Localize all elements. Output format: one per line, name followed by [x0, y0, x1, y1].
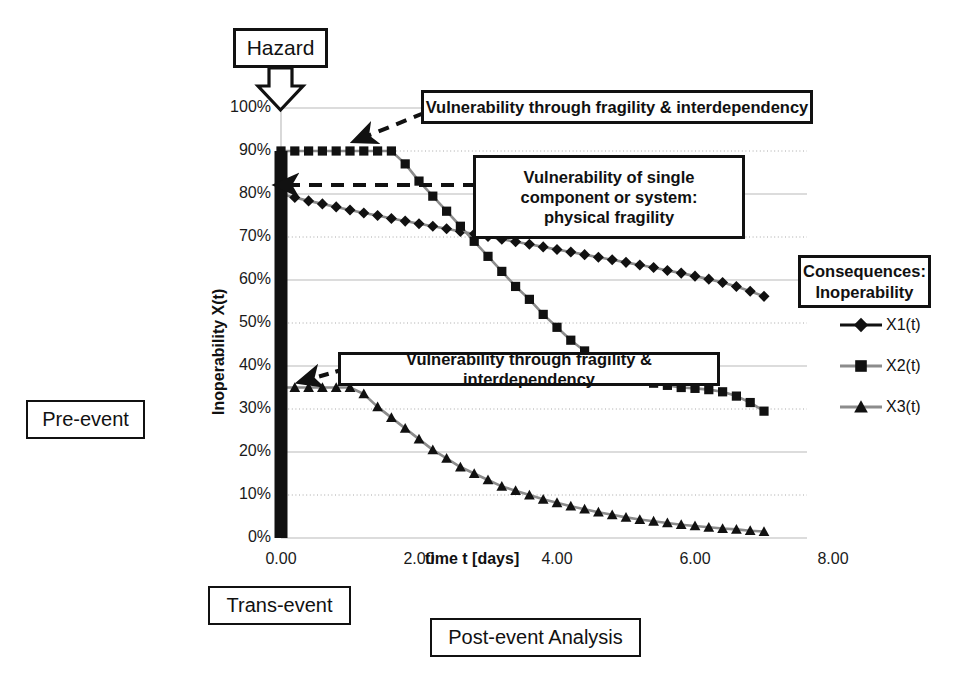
y-tick-label-10: 10%: [203, 485, 271, 503]
x-tick-label-4: 4.00: [517, 550, 597, 568]
phase-label-pre-event: Pre-event: [26, 400, 145, 439]
chart-canvas: 0%10%20%30%40%50%60%70%80%90%100% 0.002.…: [0, 0, 958, 693]
legend-marker-square-icon: [838, 357, 884, 375]
x-tick-label-6: 6.00: [655, 550, 735, 568]
x-tick-label-8: 8.00: [793, 550, 873, 568]
legend-label: X2(t): [886, 357, 921, 375]
phase-label-post-event: Post-event Analysis: [430, 618, 641, 657]
legend-label: X3(t): [886, 398, 921, 416]
legend-marker-triangle-icon: [838, 398, 884, 416]
marker-diamond: [854, 318, 868, 332]
callout-middle-box: Vulnerability of single component or sys…: [473, 155, 745, 239]
y-tick-label-90: 90%: [203, 141, 271, 159]
phase-label-trans-event: Trans-event: [208, 586, 351, 625]
legend-title-box: Consequences: Inoperability: [798, 255, 931, 308]
legend-label: X1(t): [886, 316, 921, 334]
x-axis-title: time t [days]: [425, 550, 519, 568]
legend-marker-diamond-icon: [838, 316, 884, 334]
y-tick-label-100: 100%: [203, 98, 271, 116]
marker-square: [855, 360, 867, 372]
y-tick-label-60: 60%: [203, 270, 271, 288]
callout-middle-line-2: component or system:: [521, 187, 698, 207]
legend-entry-X2t[interactable]: X2(t): [838, 357, 921, 375]
legend-title-line-2: Inoperability: [815, 282, 913, 302]
callout-lower-box: Vulnerability through fragility & interd…: [338, 352, 720, 386]
y-tick-label-0: 0%: [203, 528, 271, 546]
legend-entry-X3t[interactable]: X3(t): [838, 398, 921, 416]
callout-middle-line-3: physical fragility: [544, 207, 674, 227]
legend-title-line-1: Consequences:: [803, 261, 926, 281]
legend-entry-X1t[interactable]: X1(t): [838, 316, 921, 334]
y-tick-label-70: 70%: [203, 227, 271, 245]
callout-top-box: Vulnerability through fragility & interd…: [421, 90, 813, 124]
x-tick-label-0: 0.00: [241, 550, 321, 568]
y-axis-title: Inoperability X(t): [210, 289, 228, 415]
y-tick-label-80: 80%: [203, 184, 271, 202]
callout-middle-line-1: Vulnerability of single: [524, 167, 695, 187]
hazard-label-box: Hazard: [233, 28, 328, 68]
y-tick-label-20: 20%: [203, 442, 271, 460]
